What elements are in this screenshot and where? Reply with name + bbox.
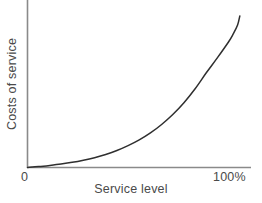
y-axis-title-container: Costs of service [0,0,24,168]
x-axis-tick-min: 0 [21,170,28,184]
x-axis-title: Service level [0,182,262,196]
y-axis-title: Costs of service [5,38,19,130]
cost-of-service-chart: Costs of service Service level 0 100% [0,0,262,203]
cost-of-service-curve [28,16,240,168]
x-axis-tick-max: 100% [213,170,246,184]
